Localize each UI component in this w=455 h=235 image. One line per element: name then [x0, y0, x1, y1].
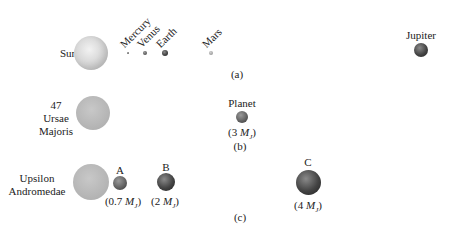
ups-and-label: Upsilon Andromedae	[9, 172, 66, 198]
47-uma-label: 47 Ursae Majoris	[39, 99, 73, 138]
jupiter-label: Jupiter	[406, 29, 436, 41]
planet-c-mass: (4 MJ)	[294, 199, 322, 216]
venus-sphere	[143, 51, 147, 55]
earth-sphere	[162, 50, 168, 56]
planet-a-label: A	[116, 164, 124, 176]
mars-sphere	[209, 51, 213, 55]
ups-and-sphere	[73, 164, 109, 200]
47-uma-sphere	[76, 96, 110, 130]
planet-b-label: Planet	[228, 97, 256, 109]
mars-label: Mars	[200, 26, 224, 50]
planet-b-sphere	[236, 111, 248, 123]
sun-sphere	[74, 36, 108, 70]
planet-a-sphere	[113, 176, 127, 190]
panel-c-caption: (c)	[234, 211, 246, 223]
panel-a-caption: (a)	[231, 68, 243, 80]
planet-b-c-sphere	[157, 173, 175, 191]
jupiter-sphere	[414, 43, 428, 57]
planet-b-c-mass: (2 MJ)	[151, 195, 179, 212]
planet-c-label: C	[304, 156, 311, 168]
mercury-sphere	[127, 52, 129, 54]
planet-b-c-label: B	[162, 161, 169, 173]
panel-b-caption: (b)	[234, 140, 247, 152]
planet-a-mass: (0.7 MJ)	[105, 195, 141, 212]
planet-c-sphere	[296, 170, 321, 195]
